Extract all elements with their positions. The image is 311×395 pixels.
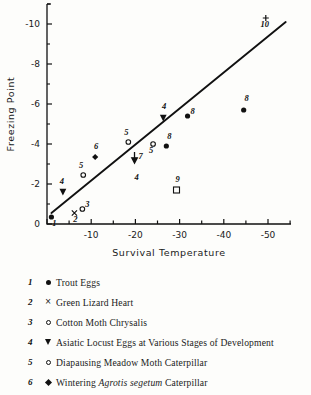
data-point: 8 bbox=[241, 93, 249, 113]
trend-line bbox=[51, 22, 285, 213]
data-point: 4 bbox=[160, 101, 167, 121]
data-point-marker-filled-circle bbox=[241, 107, 246, 112]
legend-item-number: 1 bbox=[28, 277, 40, 287]
data-point-label: 9 bbox=[175, 174, 180, 184]
data-point-marker-diamond bbox=[92, 154, 98, 160]
data-point: 1 bbox=[49, 214, 57, 228]
x-tick-label: -50 bbox=[261, 230, 276, 240]
y-axis-title: Freezing Point bbox=[5, 77, 16, 152]
legend-item: 5Diapausing Meadow Moth Caterpillar bbox=[0, 352, 311, 372]
data-point-marker-triangle-down bbox=[60, 189, 67, 196]
data-point-label: 8 bbox=[190, 106, 195, 116]
plot-svg: 0-2-4-6-8-10-10-20-30-40-50Survival Temp… bbox=[0, 0, 311, 268]
data-point-label: 4 bbox=[134, 172, 139, 182]
legend-item-label: Cotton Moth Chrysalis bbox=[56, 317, 147, 328]
figure-page: 0-2-4-6-8-10-10-20-30-40-50Survival Temp… bbox=[0, 0, 311, 395]
y-tick-label: -2 bbox=[31, 179, 40, 189]
x-tick-label: -40 bbox=[216, 230, 231, 240]
data-point: 9 bbox=[174, 174, 181, 193]
legend-item: 4Asiatic Locust Eggs at Various Stages o… bbox=[0, 332, 311, 352]
data-point-marker-open-circle bbox=[80, 207, 85, 212]
data-point: 3 bbox=[80, 199, 90, 211]
data-point-marker-filled-circle bbox=[185, 113, 190, 118]
data-point-label: 2 bbox=[72, 214, 78, 224]
legend-item-label: Diapausing Meadow Moth Caterpillar bbox=[56, 357, 207, 368]
x-tick-label: -30 bbox=[172, 230, 187, 240]
data-point-label: 6 bbox=[94, 141, 99, 151]
x-axis-title: Survival Temperature bbox=[112, 247, 226, 258]
triangle-down-icon bbox=[40, 339, 56, 345]
legend-item: 2×Green Lizard Heart bbox=[0, 292, 311, 312]
data-point-label: 7 bbox=[138, 151, 143, 161]
data-point-label: 1 bbox=[52, 218, 56, 228]
x-tick-label: -10 bbox=[84, 230, 99, 240]
data-point: 4 bbox=[134, 172, 139, 182]
legend-item-number: 2 bbox=[28, 297, 40, 307]
open-circle-icon bbox=[40, 360, 56, 365]
legend-item-label: Green Lizard Heart bbox=[56, 297, 133, 308]
data-point-marker-filled-circle bbox=[164, 143, 169, 148]
data-point: 5 bbox=[124, 127, 130, 144]
legend-item: 6Wintering Agrotis segetum Caterpillar bbox=[0, 372, 311, 392]
data-point: 6 bbox=[92, 141, 99, 160]
cross-icon: × bbox=[40, 298, 56, 306]
data-point-label: 5 bbox=[124, 127, 129, 137]
data-point: 2 bbox=[72, 210, 78, 224]
data-point: 7 bbox=[132, 151, 144, 163]
data-point-label: 10 bbox=[261, 19, 270, 29]
legend: 1Trout Eggs2×Green Lizard Heart3Cotton M… bbox=[0, 268, 311, 395]
legend-item-species-name: Agrotis segetum bbox=[98, 377, 162, 388]
y-tick-label: -6 bbox=[31, 99, 40, 109]
open-circle-icon bbox=[40, 320, 56, 325]
data-point-marker-open-circle bbox=[81, 173, 86, 178]
data-point-marker-arrow-down bbox=[132, 152, 138, 163]
data-point-label: 4 bbox=[59, 176, 64, 186]
y-tick-label: -8 bbox=[31, 59, 40, 69]
y-tick-label: 0 bbox=[34, 219, 40, 229]
legend-item-number: 5 bbox=[28, 357, 40, 367]
filled-circle-icon bbox=[40, 280, 56, 285]
data-point-label: 8 bbox=[167, 131, 172, 141]
y-tick-label: -4 bbox=[31, 139, 40, 149]
legend-item-number: 4 bbox=[28, 337, 40, 347]
data-point-marker-open-circle bbox=[126, 140, 131, 145]
data-point: 4 bbox=[59, 176, 67, 195]
data-point-label: 5 bbox=[149, 145, 154, 155]
data-point: 5 bbox=[79, 160, 85, 177]
data-point-label: 5 bbox=[79, 160, 84, 170]
legend-item-number: 6 bbox=[28, 377, 40, 387]
scatter-plot: 0-2-4-6-8-10-10-20-30-40-50Survival Temp… bbox=[0, 0, 311, 268]
legend-item-number: 3 bbox=[28, 317, 40, 327]
data-point: 5 bbox=[149, 142, 155, 155]
data-point-label: 8 bbox=[245, 93, 250, 103]
data-point: 8 bbox=[185, 106, 195, 119]
diamond-icon bbox=[40, 380, 56, 385]
x-tick-label: -20 bbox=[128, 230, 143, 240]
legend-item-label: Wintering Agrotis segetum Caterpillar bbox=[56, 377, 208, 388]
data-point-label: 4 bbox=[161, 101, 166, 111]
axis-spines bbox=[47, 4, 291, 224]
legend-item-label: Asiatic Locust Eggs at Various Stages of… bbox=[56, 337, 274, 348]
legend-item: 1Trout Eggs bbox=[0, 272, 311, 292]
data-point-label: 3 bbox=[84, 199, 90, 209]
legend-item-label: Trout Eggs bbox=[56, 277, 100, 288]
legend-item: 3Cotton Moth Chrysalis bbox=[0, 312, 311, 332]
data-point: 10 bbox=[261, 15, 270, 29]
data-point: 8 bbox=[164, 131, 172, 149]
y-tick-label: -10 bbox=[25, 19, 40, 29]
data-point-marker-open-square bbox=[174, 187, 180, 193]
